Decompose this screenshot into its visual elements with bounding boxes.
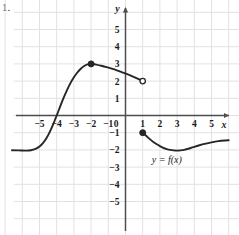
y-tick-label: −2 — [109, 145, 119, 155]
x-tick-label: 4 — [192, 119, 197, 129]
x-tick-label: −3 — [69, 119, 79, 129]
x-tick-label: 3 — [175, 119, 180, 129]
axes — [16, 7, 229, 231]
x-tick-label: 2 — [158, 119, 163, 129]
function-curve — [12, 64, 229, 151]
y-axis-arrow — [123, 7, 128, 12]
y-tick-label: 2 — [115, 77, 120, 87]
x-tick-label: −5 — [34, 119, 44, 129]
y-tick-label: −5 — [109, 197, 119, 207]
closed-endpoint — [140, 130, 146, 136]
y-tick-label: 3 — [115, 59, 120, 69]
tick-labels: −5−4−3−2−1012345−5−4−3−2−112345xy — [34, 3, 226, 207]
x-tick-label: 5 — [209, 119, 214, 129]
x-tick-label: 1 — [140, 119, 145, 129]
y-tick-label: 1 — [115, 94, 120, 104]
x-tick-label: −2 — [86, 119, 96, 129]
open-endpoint — [140, 78, 145, 83]
y-tick-label: 4 — [115, 42, 120, 52]
x-axis-label: x — [221, 119, 227, 130]
y-tick-label: −3 — [109, 163, 119, 173]
function-label: y = f(x) — [151, 154, 183, 166]
curve-left-branch — [12, 64, 91, 151]
y-tick-label: −4 — [109, 180, 119, 190]
y-tick-label: −1 — [109, 128, 119, 138]
y-tick-label: 5 — [115, 25, 120, 35]
annotations: y = f(x) — [151, 154, 183, 166]
coordinate-plane: −5−4−3−2−1012345−5−4−3−2−112345xy y = f(… — [0, 0, 239, 235]
graph-figure: 1. −5−4−3−2−1012345−5−4−3−2−112345xy y =… — [0, 0, 239, 235]
y-axis-label: y — [114, 3, 120, 14]
local-max-point — [88, 61, 94, 67]
curve-right-branch — [143, 133, 229, 151]
grid-lines — [5, 0, 239, 235]
